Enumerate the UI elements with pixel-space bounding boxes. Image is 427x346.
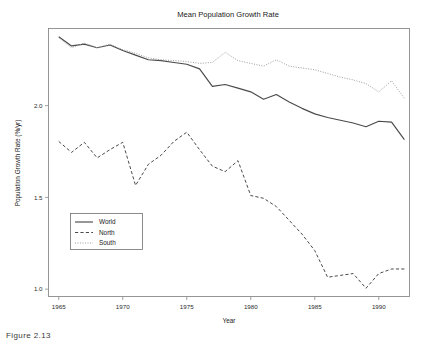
y-tick-label: 2.0 bbox=[34, 102, 43, 109]
x-tick-label: 1985 bbox=[308, 303, 322, 310]
x-tick-label: 1990 bbox=[372, 303, 386, 310]
x-tick-label: 1970 bbox=[116, 303, 130, 310]
series-line-south bbox=[59, 38, 405, 99]
legend-label-world: World bbox=[99, 218, 116, 225]
figure-caption: Figure 2.13 bbox=[6, 331, 51, 340]
mean-population-growth-rate-chart: Mean Population Growth Rate 196519701975… bbox=[0, 0, 427, 346]
figure-container: Mean Population Growth Rate 196519701975… bbox=[0, 0, 427, 346]
legend-label-north: North bbox=[99, 229, 115, 236]
y-axis-ticks: 1.01.52.0 bbox=[34, 102, 49, 293]
x-tick-label: 1975 bbox=[180, 303, 194, 310]
data-series-group bbox=[59, 37, 405, 288]
chart-legend: WorldNorthSouth bbox=[71, 214, 143, 250]
legend-label-south: South bbox=[99, 239, 116, 246]
series-line-north bbox=[59, 132, 405, 288]
x-tick-label: 1980 bbox=[244, 303, 258, 310]
chart-title: Mean Population Growth Rate bbox=[177, 10, 279, 19]
x-axis-ticks: 196519701975198019851990 bbox=[52, 297, 386, 310]
x-tick-label: 1965 bbox=[52, 303, 66, 310]
y-tick-label: 1.5 bbox=[34, 194, 43, 201]
series-line-world bbox=[59, 37, 405, 140]
y-tick-label: 1.0 bbox=[34, 285, 43, 292]
plot-frame bbox=[49, 29, 410, 297]
x-axis-title: Year bbox=[223, 317, 237, 324]
y-axis-title: Population Growth Rate (%/yr) bbox=[14, 120, 22, 207]
